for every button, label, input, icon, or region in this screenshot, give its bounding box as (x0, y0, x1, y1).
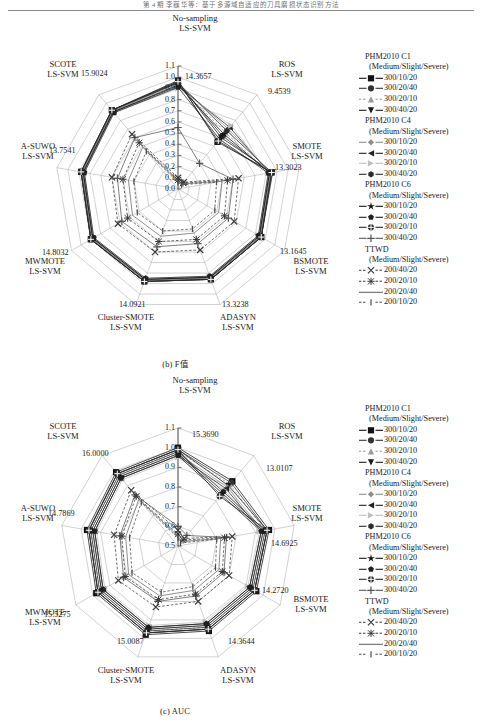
legend-group-subtitle-0: (Medium/Slight/Severe) (358, 62, 482, 72)
radial-tick-label: 0.3 (154, 151, 175, 159)
legend-item-label: 300/20/40 (384, 500, 417, 511)
legend-group-title-3: TTWD (358, 597, 482, 607)
legend-item-1-1[interactable]: 300/20/40 (358, 500, 482, 511)
legend-figure-c: PHM2010 C1(Medium/Slight/Severe)300/10/2… (358, 404, 482, 661)
legend-item-3-0[interactable]: 200/40/20 (358, 617, 482, 628)
value-label-3: 13.1645 (280, 247, 307, 256)
legend-group-subtitle-1: (Medium/Slight/Severe) (358, 127, 482, 137)
legend-item-label: 300/10/20 (384, 553, 417, 564)
legend-item-0-1[interactable]: 300/20/40 (358, 83, 482, 94)
legend-item-0-1[interactable]: 300/20/40 (358, 435, 482, 446)
legend-item-label: 300/20/10 (384, 574, 417, 585)
legend-item-label: 300/40/20 (384, 521, 417, 532)
legend-item-label: 300/20/10 (384, 510, 417, 521)
legend-item-2-0[interactable]: 300/10/20 (358, 553, 482, 564)
legend-item-label: 300/40/20 (384, 585, 417, 596)
value-label-c-6: 15.5275 (44, 610, 71, 619)
radial-tick-label: 0.9 (154, 463, 175, 471)
legend-item-label: 300/20/40 (384, 148, 417, 159)
legend-item-0-3[interactable]: 300/40/20 (358, 105, 482, 116)
legend-item-3-3[interactable]: 200/10/20 (358, 649, 482, 660)
value-label-c-5: 15.0087 (117, 637, 144, 646)
value-label-c-7: 14.7869 (48, 509, 75, 518)
legend-item-label: 300/20/40 (384, 83, 417, 94)
legend-item-0-2[interactable]: 300/20/10 (358, 94, 482, 105)
radial-tick-label: 0.0 (154, 185, 175, 193)
legend-group-subtitle-2: (Medium/Slight/Severe) (358, 543, 482, 553)
legend-marker-filled-triangle-down-icon (358, 457, 384, 468)
radial-tick-label: 0.8 (154, 96, 175, 104)
axis-label-0-line2: LS-SVM (179, 23, 211, 33)
legend-item-label: 200/20/10 (384, 628, 417, 639)
legend-item-3-1[interactable]: 200/20/10 (358, 276, 482, 287)
legend-marker-asterisk-icon (358, 276, 384, 287)
axis-label-c-5: Cluster-SMOTE LS-SVM (74, 666, 178, 685)
legend-item-0-0[interactable]: 300/10/20 (358, 73, 482, 84)
value-label-2: 13.3023 (275, 163, 302, 172)
axis-label-2-line2: LS-SVM (291, 151, 323, 161)
legend-item-0-0[interactable]: 300/10/20 (358, 425, 482, 436)
legend-item-1-3[interactable]: 300/40/20 (358, 169, 482, 180)
legend-item-label: 300/20/40 (384, 435, 417, 446)
legend-item-1-2[interactable]: 300/20/10 (358, 510, 482, 521)
axis-label-0: No-sampling LS-SVM (140, 14, 250, 33)
axis-label-8-line2: LS-SVM (47, 69, 79, 79)
legend-group-2: PHM2010 C6(Medium/Slight/Severe)300/10/2… (358, 180, 482, 243)
axis-label-c-4-line2: LS-SVM (222, 675, 254, 685)
axis-label-c-1: ROS LS-SVM (252, 422, 322, 441)
legend-item-3-2[interactable]: 200/20/40 (358, 639, 482, 650)
legend-marker-asterisk-icon (358, 628, 384, 639)
axis-label-c-0-line1: No-sampling (173, 375, 218, 385)
legend-group-1: PHM2010 C4(Medium/Slight/Severe)300/10/2… (358, 116, 482, 179)
legend-item-2-0[interactable]: 300/10/20 (358, 201, 482, 212)
radial-tick-label: 0.4 (154, 140, 175, 148)
value-label-c-1: 13.0107 (266, 464, 293, 473)
legend-item-0-2[interactable]: 300/20/10 (358, 446, 482, 457)
legend-item-label: 300/20/10 (384, 222, 417, 233)
legend-marker-circle-cross-icon (358, 574, 384, 585)
axis-label-c-8-line1: SCOTE (49, 421, 76, 431)
radar-chart-b: No-sampling LS-SVM ROS LS-SVM SMOTE LS-S… (0, 14, 350, 354)
legend-group-0: PHM2010 C1(Medium/Slight/Severe)300/10/2… (358, 404, 482, 467)
legend-item-3-3[interactable]: 200/10/20 (358, 297, 482, 308)
legend-item-1-2[interactable]: 300/20/10 (358, 158, 482, 169)
axis-label-6: MWMOTE LS-SVM (8, 257, 82, 276)
legend-item-1-0[interactable]: 300/10/20 (358, 489, 482, 500)
legend-marker-filled-circle-icon (358, 435, 384, 446)
legend-item-3-1[interactable]: 200/20/10 (358, 628, 482, 639)
axis-label-6-line2: LS-SVM (29, 266, 61, 276)
legend-item-1-1[interactable]: 300/20/40 (358, 148, 482, 159)
legend-marker-filled-square-icon (358, 73, 384, 84)
legend-item-2-1[interactable]: 300/20/40 (358, 212, 482, 223)
legend-item-label: 300/10/20 (384, 73, 417, 84)
legend-item-0-3[interactable]: 300/40/20 (358, 457, 482, 468)
legend-group-title-2: PHM2010 C6 (358, 180, 482, 190)
legend-item-3-0[interactable]: 200/40/20 (358, 265, 482, 276)
legend-item-1-0[interactable]: 300/10/20 (358, 137, 482, 148)
axis-label-2-line1: SMOTE (292, 141, 321, 151)
legend-item-2-1[interactable]: 300/20/40 (358, 564, 482, 575)
value-label-c-4: 14.3644 (228, 637, 255, 646)
axis-label-4-line2: LS-SVM (222, 322, 254, 332)
legend-marker-pentagon-icon (358, 212, 384, 223)
axis-label-1-line2: LS-SVM (271, 69, 303, 79)
legend-item-label: 300/20/10 (384, 158, 417, 169)
value-label-5: 14.0921 (119, 300, 146, 309)
legend-item-2-3[interactable]: 300/40/20 (358, 233, 482, 244)
legend-item-3-2[interactable]: 200/20/40 (358, 287, 482, 298)
legend-marker-triangle-left-icon (358, 500, 384, 511)
radial-tick-label: 1.1 (154, 62, 175, 70)
legend-item-2-2[interactable]: 300/20/10 (358, 222, 482, 233)
axis-label-2: SMOTE LS-SVM (272, 142, 342, 161)
legend-item-2-3[interactable]: 300/40/20 (358, 585, 482, 596)
axis-label-c-4-line1: ADASYN (220, 665, 256, 675)
legend-marker-vbar-icon (358, 297, 384, 308)
legend-item-1-3[interactable]: 300/40/20 (358, 521, 482, 532)
legend-marker-star-icon (358, 201, 384, 212)
legend-marker-filled-triangle-up-icon (358, 94, 384, 105)
legend-marker-pentagon-icon (358, 564, 384, 575)
figure-c-caption: (c) AUC (0, 707, 350, 716)
legend-item-2-2[interactable]: 300/20/10 (358, 574, 482, 585)
axis-label-c-4: ADASYN LS-SVM (197, 666, 279, 685)
value-label-1: 9.4539 (268, 87, 291, 96)
